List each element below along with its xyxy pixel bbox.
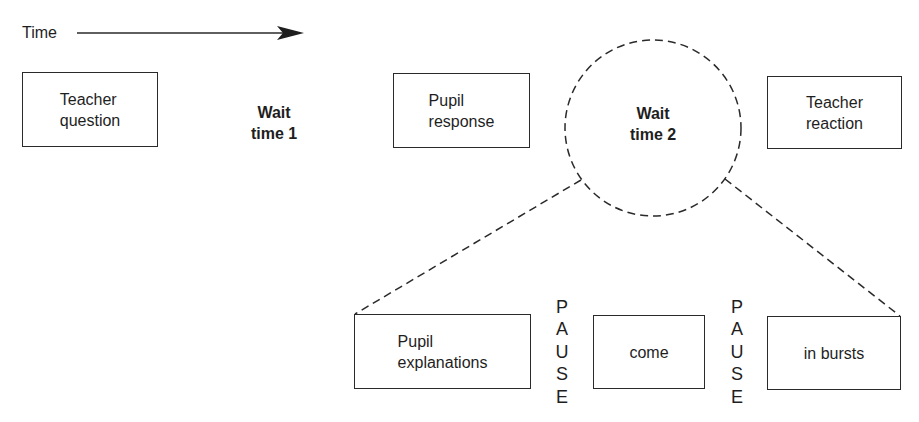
- pause-letter: P: [731, 296, 743, 318]
- in-bursts-box: in bursts: [767, 316, 901, 390]
- pause-letter: P: [556, 296, 568, 318]
- pause-label-1: P A U S E: [552, 296, 572, 408]
- pause-letter: S: [556, 363, 568, 385]
- pupil-response-label: Pupil response: [429, 90, 495, 132]
- teacher-question-label: Teacher question: [60, 89, 121, 131]
- pause-letter: E: [556, 386, 568, 408]
- come-label: come: [629, 342, 668, 363]
- pupil-explanations-box: Pupil explanations: [354, 314, 531, 389]
- come-box: come: [593, 315, 705, 389]
- pupil-response-box: Pupil response: [393, 73, 530, 148]
- time-label: Time: [22, 23, 57, 43]
- pause-letter: E: [731, 386, 743, 408]
- pause-letter: S: [731, 363, 743, 385]
- expansion-line-right: [725, 179, 900, 316]
- pause-letter: A: [556, 318, 568, 340]
- teacher-reaction-box: Teacher reaction: [767, 76, 902, 149]
- pause-letter: U: [731, 341, 744, 363]
- in-bursts-label: in bursts: [804, 343, 864, 364]
- wait-time-1-label: Wait time 1: [238, 102, 310, 144]
- pupil-explanations-label: Pupil explanations: [398, 331, 488, 373]
- teacher-question-box: Teacher question: [22, 72, 158, 147]
- wait-time-2-label: Wait time 2: [613, 103, 693, 145]
- expansion-line-left: [355, 180, 581, 314]
- pause-label-2: P A U S E: [727, 296, 747, 408]
- pause-letter: A: [731, 318, 743, 340]
- teacher-reaction-label: Teacher reaction: [806, 92, 863, 134]
- pause-letter: U: [556, 341, 569, 363]
